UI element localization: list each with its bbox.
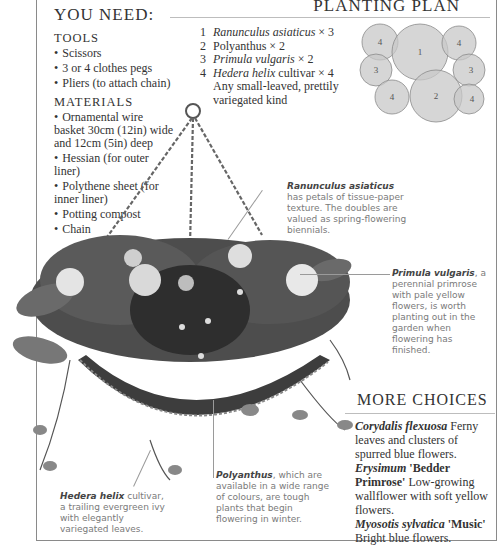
tool-item: •3 or 4 clothes pegs xyxy=(54,62,174,75)
hanging-basket-photo xyxy=(0,100,380,490)
planting-plan-header: PLANTING PLAN xyxy=(170,0,490,18)
annotation-polyanthus: Polyanthus, which are available in a wid… xyxy=(216,470,336,525)
more-choices-panel: MORE CHOICES Corydalis flexuosa Ferny le… xyxy=(355,390,495,545)
diagram-label: 3 xyxy=(374,65,379,75)
tool-item: •Pliers (to attach chain) xyxy=(54,77,174,90)
diagram-label: 4 xyxy=(378,37,383,47)
polyanthus-leader-line xyxy=(213,400,214,478)
choice-item: Erysimum 'Bedder Primrose' Low-growing w… xyxy=(355,461,495,517)
plan-item: 3Primula vulgaris × 2 xyxy=(200,53,350,67)
diagram-label: 2 xyxy=(434,91,439,101)
annotation-primula: Primula vulgaris, a perennial primrose w… xyxy=(392,268,492,356)
annotation-hedera: Hedera helix cultivar, a trailing evergr… xyxy=(60,491,172,535)
plan-item: 1Ranunculus asiaticus × 3 xyxy=(200,26,350,40)
tool-item: •Scissors xyxy=(54,47,174,60)
plan-item: 2Polyanthus × 2 xyxy=(200,40,350,54)
tools-heading: TOOLS xyxy=(54,30,174,46)
diagram-label: 3 xyxy=(469,65,474,75)
diagram-label: 4 xyxy=(457,38,462,48)
diagram-label: 4 xyxy=(390,92,395,102)
more-choices-title: MORE CHOICES xyxy=(355,390,495,410)
planting-plan-list: 1Ranunculus asiaticus × 3 2Polyanthus × … xyxy=(200,26,350,107)
diagram-label: 1 xyxy=(418,47,423,57)
annotation-ranunculus: Ranunculus asiaticus has petals of tissu… xyxy=(287,181,407,236)
choice-item: Myosotis sylvatica 'Music' Bright blue f… xyxy=(355,517,495,545)
diagram-label: 4 xyxy=(470,94,475,104)
planting-plan-title: PLANTING PLAN xyxy=(313,0,460,16)
you-need-title: YOU NEED: xyxy=(54,4,174,26)
primula-leader-line xyxy=(300,274,390,275)
tools-list: •Scissors •3 or 4 clothes pegs •Pliers (… xyxy=(54,47,174,90)
choice-item: Corydalis flexuosa Ferny leaves and clus… xyxy=(355,419,495,461)
more-choices-rule xyxy=(345,413,495,414)
